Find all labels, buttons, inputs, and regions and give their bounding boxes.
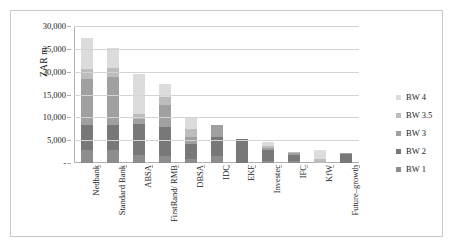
chart-legend: BW 4BW 3.5BW 3BW 2BW 1 bbox=[396, 93, 455, 183]
legend-swatch-icon bbox=[396, 167, 401, 172]
bar-segment[interactable] bbox=[159, 105, 171, 126]
y-axis-title: ZAR m bbox=[39, 27, 49, 97]
stacked-bar[interactable] bbox=[314, 150, 326, 163]
bar-segment[interactable] bbox=[159, 156, 171, 163]
bar-segment[interactable] bbox=[288, 161, 300, 163]
bar-segment[interactable] bbox=[107, 125, 119, 150]
y-axis-tick-mark bbox=[67, 163, 71, 164]
legend-item[interactable]: BW 2 bbox=[396, 147, 455, 156]
x-axis-tick-label: ABSA bbox=[143, 165, 153, 188]
bar-segment[interactable] bbox=[107, 150, 119, 163]
x-axis-tick-label: EKF bbox=[246, 165, 256, 181]
stacked-bar[interactable] bbox=[107, 48, 119, 163]
bar-segment[interactable] bbox=[81, 38, 93, 69]
bar-segment[interactable] bbox=[211, 125, 223, 137]
legend-label: BW 1 bbox=[406, 165, 426, 174]
x-axis-tick-label: FirstRand/ RMB bbox=[169, 165, 179, 222]
bar-segment[interactable] bbox=[236, 139, 248, 163]
legend-label: BW 3.5 bbox=[406, 111, 432, 120]
bar-segment[interactable] bbox=[185, 129, 197, 137]
y-axis-tick-mark bbox=[67, 72, 71, 73]
bar-segment[interactable] bbox=[314, 159, 326, 163]
bar-segment[interactable] bbox=[159, 97, 171, 106]
bar-segment[interactable] bbox=[133, 155, 145, 163]
bar-segment[interactable] bbox=[211, 156, 223, 163]
bar-segment[interactable] bbox=[314, 150, 326, 160]
stacked-bar[interactable] bbox=[159, 84, 171, 163]
legend-label: BW 2 bbox=[406, 147, 426, 156]
y-axis-tick-mark bbox=[67, 117, 71, 118]
stacked-bar[interactable] bbox=[340, 153, 352, 163]
gridline bbox=[74, 72, 359, 73]
stacked-bar[interactable] bbox=[133, 74, 145, 163]
plot-area bbox=[74, 26, 359, 163]
bar-segment[interactable] bbox=[185, 159, 197, 163]
legend-item[interactable]: BW 1 bbox=[396, 165, 455, 174]
bar-segment[interactable] bbox=[340, 154, 352, 163]
gridline bbox=[74, 49, 359, 50]
legend-swatch-icon bbox=[396, 113, 401, 118]
y-axis-tick-label: - bbox=[63, 159, 66, 168]
bar-segment[interactable] bbox=[107, 48, 119, 67]
stacked-bar[interactable] bbox=[81, 38, 93, 163]
x-axis-tick-label: IDC bbox=[221, 165, 231, 180]
x-axis-tick-label: DBSA bbox=[195, 165, 205, 188]
bar-segment[interactable] bbox=[81, 150, 93, 163]
x-axis-tick-labels: NedbankStandard BankABSAFirstRand/ RMBDB… bbox=[74, 165, 359, 240]
bar-segment[interactable] bbox=[159, 127, 171, 156]
bar-segment[interactable] bbox=[262, 161, 274, 163]
gridline bbox=[74, 117, 359, 118]
gridline bbox=[74, 26, 359, 27]
stacked-bar[interactable] bbox=[262, 142, 274, 163]
legend-item[interactable]: BW 4 bbox=[396, 93, 455, 102]
x-axis-tick-label: Nedbank bbox=[91, 165, 101, 196]
legend-swatch-icon bbox=[396, 131, 401, 136]
x-axis-tick-label: IFC bbox=[298, 165, 308, 178]
x-axis-tick-label: Investec bbox=[272, 165, 282, 193]
x-axis-tick-label: Standard Bank bbox=[117, 165, 127, 215]
chart-frame: 30,00025,00020,00015,00010,0005,000- ZAR… bbox=[10, 10, 443, 237]
stacked-bar[interactable] bbox=[236, 139, 248, 163]
legend-swatch-icon bbox=[396, 149, 401, 154]
y-axis-tick-mark bbox=[67, 26, 71, 27]
legend-label: BW 3 bbox=[406, 129, 426, 138]
bar-segment[interactable] bbox=[81, 125, 93, 150]
x-axis-tick-label: Future–growth bbox=[350, 165, 360, 216]
y-axis-tick-mark bbox=[67, 140, 71, 141]
legend-item[interactable]: BW 3 bbox=[396, 129, 455, 138]
legend-label: BW 4 bbox=[406, 93, 426, 102]
gridline bbox=[74, 140, 359, 141]
bar-segment[interactable] bbox=[262, 150, 274, 161]
y-axis-tick-label: 10,000 bbox=[43, 113, 66, 122]
y-axis-tick-label: 5,000 bbox=[47, 136, 66, 145]
stacked-bar[interactable] bbox=[288, 152, 300, 163]
gridline bbox=[74, 95, 359, 96]
legend-item[interactable]: BW 3.5 bbox=[396, 111, 455, 120]
bar-segment[interactable] bbox=[185, 118, 197, 129]
y-axis-tick-mark bbox=[67, 95, 71, 96]
x-axis-tick-label: KfW bbox=[324, 165, 334, 182]
y-axis-tick-mark bbox=[67, 49, 71, 50]
stacked-bar[interactable] bbox=[211, 125, 223, 163]
legend-swatch-icon bbox=[396, 95, 401, 100]
bar-segment[interactable] bbox=[185, 144, 197, 159]
